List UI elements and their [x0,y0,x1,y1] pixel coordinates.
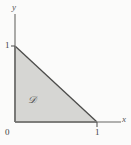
y-tick-label-one: 1 [5,41,10,50]
figure-canvas [0,0,131,145]
x-tick-label-one: 1 [95,128,100,137]
region-d-label: 𝒟 [28,95,36,105]
y-axis-label: y [12,3,16,12]
origin-tick-label: 0 [5,128,10,137]
triangular-region-figure: y x 0 1 1 𝒟 [0,0,131,145]
x-axis-label: x [122,115,126,124]
